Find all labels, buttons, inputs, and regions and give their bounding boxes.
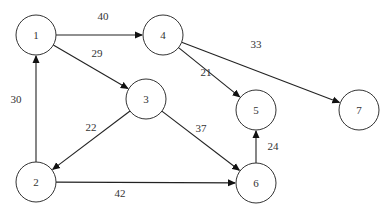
edge-weight-label: 40 [98,10,110,22]
edge-weight-label: 29 [92,47,104,59]
edges-layer [36,35,339,183]
node-label: 5 [253,104,259,116]
edge-3-to-2 [53,111,130,169]
node-label: 2 [33,176,39,188]
node-5: 5 [236,90,276,130]
edge-3-to-6 [162,111,239,170]
node-label: 7 [356,104,362,116]
edge-weight-label: 42 [115,187,126,199]
node-2: 2 [16,162,56,202]
node-7: 7 [339,90,379,130]
edge-2-to-6 [56,182,235,183]
node-label: 1 [33,29,39,41]
node-label: 4 [160,29,166,41]
node-label: 3 [143,93,149,105]
nodes-layer: 1234567 [16,15,379,203]
edge-weight-label: 22 [86,121,97,133]
node-4: 4 [143,15,183,55]
edge-weight-label: 30 [11,93,23,105]
edge-weight-label: 37 [196,122,208,134]
graph-diagram: 402930223721334224 1234567 [0,0,392,218]
edge-weight-label: 33 [251,38,263,50]
node-1: 1 [16,15,56,55]
node-label: 6 [253,177,259,189]
node-3: 3 [126,79,166,119]
node-6: 6 [236,163,276,203]
edge-weight-label: 21 [201,66,212,78]
edge-weight-label: 24 [268,140,280,152]
